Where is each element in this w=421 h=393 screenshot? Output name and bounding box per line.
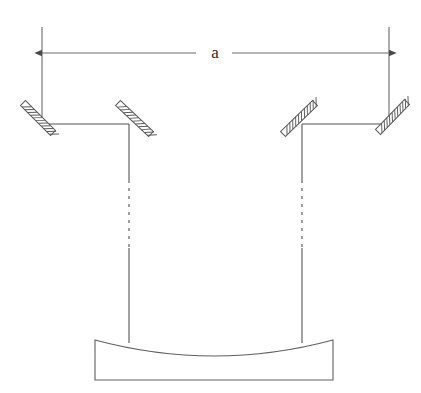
primary-mirror-group: [95, 340, 333, 380]
vertical-beam-group: [129, 124, 302, 343]
baseline-dimension: a: [42, 43, 389, 62]
inner-right-mirror: [281, 97, 321, 136]
outer-left-mirror: [21, 101, 59, 139]
dimension-extension-lines: [42, 27, 389, 125]
flat-mirror-group: [21, 96, 413, 140]
outer-right-mirror: [375, 96, 412, 134]
inner-left-mirror: [116, 100, 157, 139]
optical-schematic: a: [0, 0, 421, 393]
baseline-dimension-label: a: [211, 43, 219, 62]
concave-primary-mirror: [95, 340, 333, 380]
optical-diagram-container: a: [0, 0, 421, 393]
